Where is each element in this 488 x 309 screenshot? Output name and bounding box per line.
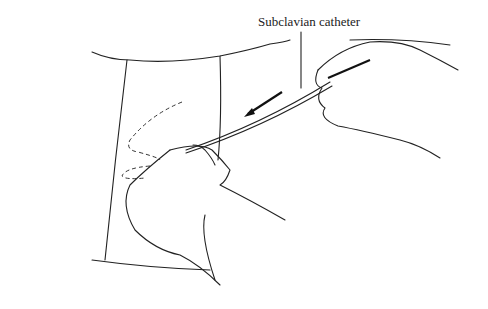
drape-outline bbox=[92, 40, 450, 270]
left-hand bbox=[126, 145, 285, 285]
catheter bbox=[186, 82, 330, 150]
right-hand bbox=[316, 42, 458, 158]
subclavian-catheter-illustration: Subclavian catheter bbox=[0, 0, 488, 309]
dashed-outline-lower bbox=[122, 166, 150, 179]
dashed-outline bbox=[129, 102, 182, 160]
catheter-parallel bbox=[186, 86, 332, 153]
direction-arrow-icon bbox=[244, 92, 282, 117]
illustration-drawing bbox=[0, 0, 488, 309]
